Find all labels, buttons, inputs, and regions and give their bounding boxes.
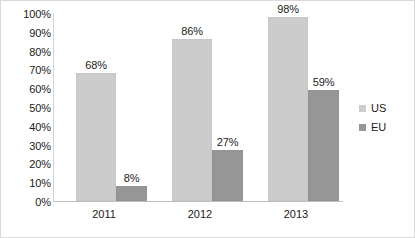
y-tick-label-80: 80%: [29, 46, 51, 58]
legend-swatch-eu-icon: [359, 124, 366, 131]
y-tick-label-60: 60%: [29, 83, 51, 95]
y-tick-label-10: 10%: [29, 177, 51, 189]
x-tick-label-2011: 2011: [58, 208, 150, 220]
legend-label-eu: EU: [371, 122, 386, 133]
x-axis-line: [53, 201, 343, 202]
bar-eu-2011[interactable]: [116, 186, 147, 201]
y-tick-label-40: 40%: [29, 121, 51, 133]
bar-value-label-us-2012: 86%: [172, 25, 212, 37]
bar-us-2013[interactable]: [268, 17, 308, 201]
y-tick-label-50: 50%: [29, 102, 51, 114]
bar-value-label-us-2011: 68%: [76, 59, 116, 71]
bar-value-label-us-2013: 98%: [268, 3, 308, 15]
bar-eu-2013[interactable]: [308, 90, 339, 201]
y-tick-label-70: 70%: [29, 64, 51, 76]
bar-value-label-eu-2011: 8%: [111, 172, 152, 184]
y-tick-label-90: 90%: [29, 27, 51, 39]
plot-area: 68% 8% 86% 27% 98% 59%: [54, 13, 343, 201]
y-tick-label-30: 30%: [29, 140, 51, 152]
x-axis: 2011 2012 2013: [54, 204, 343, 224]
bar-us-2011[interactable]: [76, 73, 116, 201]
legend-item-eu[interactable]: EU: [359, 118, 409, 137]
legend: US EU: [359, 99, 409, 137]
bar-eu-2012[interactable]: [212, 150, 243, 201]
bar-group-2013: 98% 59%: [250, 13, 342, 201]
legend-swatch-us-icon: [359, 105, 366, 112]
bar-group-2011: 68% 8%: [58, 13, 150, 201]
y-tick-label-0: 0%: [35, 196, 51, 208]
x-tick-label-2013: 2013: [250, 208, 342, 220]
bar-value-label-eu-2013: 59%: [303, 76, 344, 88]
y-axis: 100% 90% 80% 70% 60% 50% 40% 30% 20% 10%…: [7, 14, 51, 202]
y-tick-label-20: 20%: [29, 158, 51, 170]
bar-chart: 100% 90% 80% 70% 60% 50% 40% 30% 20% 10%…: [0, 0, 415, 238]
bar-us-2012[interactable]: [172, 39, 212, 201]
x-tick-label-2012: 2012: [154, 208, 246, 220]
bar-group-2012: 86% 27%: [154, 13, 246, 201]
bar-value-label-eu-2012: 27%: [207, 136, 248, 148]
legend-item-us[interactable]: US: [359, 99, 409, 118]
legend-label-us: US: [371, 103, 386, 114]
y-tick-label-100: 100%: [23, 8, 51, 20]
